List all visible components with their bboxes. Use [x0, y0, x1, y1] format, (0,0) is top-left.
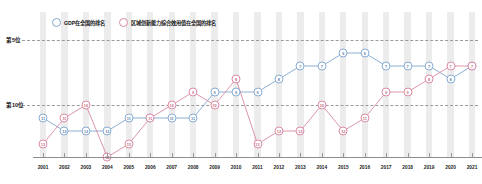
x-axis-label: 2017 [381, 165, 392, 170]
data-point-marker: 10 [317, 101, 326, 110]
data-point-marker: 13 [39, 140, 48, 149]
x-axis-line [33, 157, 482, 158]
data-point-marker: 9 [232, 88, 241, 97]
data-point-marker: 12 [103, 127, 112, 136]
x-axis-label: 2008 [188, 165, 199, 170]
data-point-marker: 7 [468, 62, 477, 71]
x-axis-tick [107, 153, 108, 157]
data-point-marker: 7 [425, 62, 434, 71]
x-axis-label: 2003 [81, 165, 92, 170]
x-axis-tick [129, 153, 130, 157]
x-axis-label: 2019 [424, 165, 435, 170]
data-point-marker: 7 [446, 62, 455, 71]
data-point-marker: 10 [167, 101, 176, 110]
x-axis-label: 2009 [209, 165, 220, 170]
x-axis-tick [86, 153, 87, 157]
x-axis-tick [451, 153, 452, 157]
data-point-marker: 7 [403, 62, 412, 71]
data-point-marker: 7 [296, 62, 305, 71]
x-axis-tick [150, 153, 151, 157]
data-point-marker: 8 [446, 75, 455, 84]
x-axis-label: 2010 [231, 165, 242, 170]
data-point-marker: 9 [210, 88, 219, 97]
data-point-marker: 10 [210, 101, 219, 110]
x-axis-tick [322, 153, 323, 157]
x-axis-tick [279, 153, 280, 157]
y-axis-label: 第10位 [6, 101, 24, 109]
x-axis-label: 2014 [317, 165, 328, 170]
data-point-marker: 12 [274, 127, 283, 136]
x-axis-tick [343, 153, 344, 157]
data-point-marker: 13 [124, 140, 133, 149]
legend-item-gdp[interactable]: GDP在全国的排名 [52, 18, 105, 27]
data-point-marker: 6 [339, 49, 348, 58]
data-point-marker: 10 [81, 101, 90, 110]
data-point-marker: 11 [60, 114, 69, 123]
data-point-marker: 12 [339, 127, 348, 136]
x-axis-label: 2002 [59, 165, 70, 170]
x-axis-tick [193, 153, 194, 157]
data-point-marker: 9 [189, 88, 198, 97]
x-axis-label: 2016 [359, 165, 370, 170]
x-axis-tick [386, 153, 387, 157]
data-point-marker: 8 [232, 75, 241, 84]
x-axis-tick [365, 153, 366, 157]
legend-label-innovation: 区域创新能力综合效用值在全国的排名 [131, 19, 216, 26]
data-point-marker: 11 [167, 114, 176, 123]
legend: GDP在全国的排名 区域创新能力综合效用值在全国的排名 [52, 18, 216, 27]
data-point-marker: 9 [403, 88, 412, 97]
data-point-marker: 12 [81, 127, 90, 136]
data-point-marker: 11 [189, 114, 198, 123]
circle-ring-pink-icon [119, 18, 128, 27]
x-axis-tick [64, 153, 65, 157]
x-axis-tick [215, 153, 216, 157]
chart-container: 1112121211111111999877667778713111014131… [0, 0, 482, 184]
data-point-marker: 12 [60, 127, 69, 136]
circle-ring-blue-icon [52, 18, 61, 27]
data-point-marker: 12 [296, 127, 305, 136]
data-point-marker: 13 [253, 140, 262, 149]
x-axis-tick [408, 153, 409, 157]
x-axis-tick [429, 153, 430, 157]
y-axis-label: 第5位 [6, 36, 21, 44]
x-axis-tick [236, 153, 237, 157]
x-axis-label: 2013 [295, 165, 306, 170]
x-axis-label: 2006 [145, 165, 156, 170]
x-axis-tick [300, 153, 301, 157]
data-point-marker: 6 [360, 49, 369, 58]
data-point-marker: 11 [39, 114, 48, 123]
x-axis-label: 2004 [102, 165, 113, 170]
data-point-marker: 7 [382, 62, 391, 71]
data-point-marker: 8 [425, 75, 434, 84]
data-point-marker: 11 [124, 114, 133, 123]
x-axis-label: 2001 [38, 165, 49, 170]
x-axis-label: 2007 [166, 165, 177, 170]
x-axis-label: 2015 [338, 165, 349, 170]
legend-label-gdp: GDP在全国的排名 [64, 19, 105, 26]
plot-area: 1112121211111111999877667778713111014131… [0, 0, 482, 184]
x-axis-label: 2005 [123, 165, 134, 170]
data-point-marker: 11 [146, 114, 155, 123]
data-point-marker: 7 [317, 62, 326, 71]
x-axis-tick [43, 153, 44, 157]
x-axis-label: 2012 [274, 165, 285, 170]
x-axis-label: 2021 [467, 165, 478, 170]
legend-item-innovation[interactable]: 区域创新能力综合效用值在全国的排名 [119, 18, 216, 27]
data-point-marker: 8 [274, 75, 283, 84]
x-axis-label: 2011 [252, 165, 262, 170]
x-axis-tick [472, 153, 473, 157]
x-axis-label: 2020 [445, 165, 456, 170]
data-point-marker: 9 [382, 88, 391, 97]
x-axis-label: 2018 [402, 165, 413, 170]
x-axis-tick [172, 153, 173, 157]
data-point-marker: 11 [360, 114, 369, 123]
data-point-marker: 9 [253, 88, 262, 97]
x-axis-tick [258, 153, 259, 157]
